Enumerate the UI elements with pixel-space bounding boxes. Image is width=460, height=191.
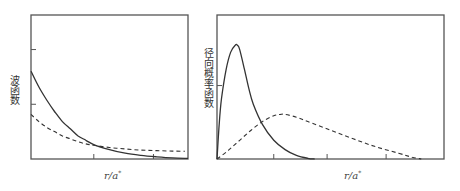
radial-probability-plot-area	[0, 0, 460, 191]
solid-curve	[217, 44, 315, 159]
plot-frame	[217, 15, 444, 159]
dashed-curve	[217, 114, 421, 159]
x-axis-label: r/a*	[344, 169, 361, 181]
radial-probability-chart: 径向概率函数 r/a*	[0, 0, 460, 191]
x-axis-label-base: r/a	[344, 170, 358, 181]
x-axis-label-superscript: *	[358, 169, 361, 176]
y-axis-label: 径向概率函数	[200, 48, 215, 108]
